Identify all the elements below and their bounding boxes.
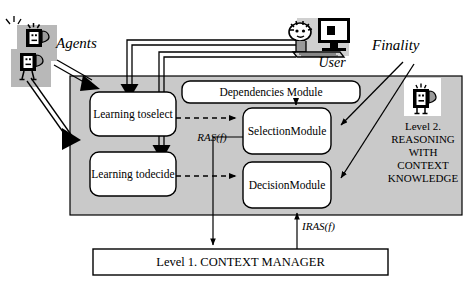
selection-module-label: SelectionModule	[243, 108, 331, 154]
level2-heading: Level 2.REASONINGWITHCONTEXTKNOWLEDGE	[378, 120, 468, 185]
edge-agents-to-learning-decide	[27, 78, 72, 139]
ras-edge-label: RAS(f)	[186, 132, 238, 144]
learning-to-select-label: Learning toselect	[90, 92, 176, 136]
dependencies-module-label: Dependencies Module	[182, 81, 360, 103]
iras-edge-label: IRAS(f)	[302, 221, 354, 233]
finality-label: Finality	[372, 38, 462, 54]
user-label: User	[306, 56, 358, 71]
robot-agents-icon	[6, 16, 57, 87]
diagram-canvas: Agents User Finality Learning toselect L…	[0, 0, 474, 291]
agents-label: Agents	[56, 36, 132, 52]
learning-to-decide-label: Learning todecide	[90, 152, 176, 196]
user-at-computer-icon	[289, 18, 350, 57]
level1-context-manager-label: Level 1. CONTEXT MANAGER	[93, 249, 388, 275]
decision-module-label: DecisionModule	[243, 162, 331, 208]
